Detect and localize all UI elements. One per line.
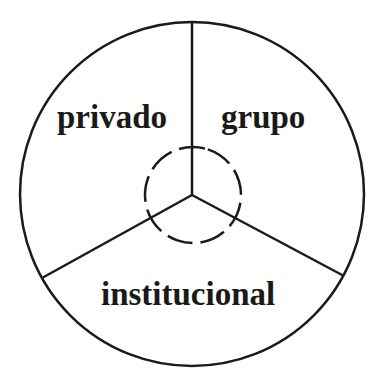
label-privado: privado: [57, 99, 167, 135]
label-institucional: institucional: [101, 276, 275, 312]
three-sector-diagram: privado grupo institucional: [0, 0, 376, 380]
divider-right: [192, 195, 344, 276]
label-grupo: grupo: [221, 99, 305, 135]
